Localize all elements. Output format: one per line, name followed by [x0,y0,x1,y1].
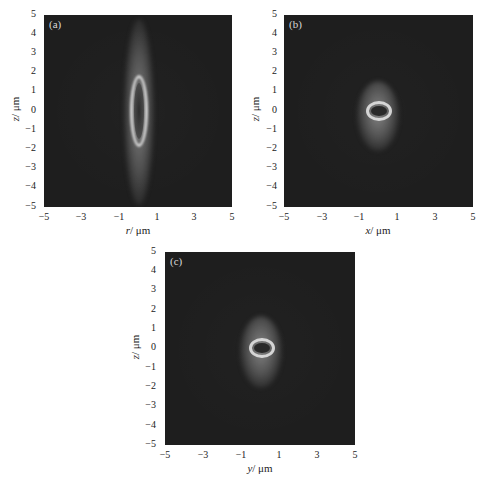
x-tick: 1 [269,449,289,460]
y-tick: 0 [259,104,277,115]
y-tick: −2 [18,142,36,153]
x-tick: 1 [387,211,407,222]
y-tick: −3 [138,399,156,410]
heatmap-plot-a: (a) [44,15,232,207]
panel-label: (b) [289,18,302,30]
x-axis-label: x/ μm [348,224,408,236]
bright-ring [130,75,148,147]
y-tick: 4 [18,27,36,38]
x-axis-label: y/ μm [230,462,290,474]
bright-ring [366,101,392,121]
x-tick: 3 [184,211,204,222]
x-tick: 3 [425,211,445,222]
y-tick: 3 [18,46,36,57]
y-tick: 2 [138,303,156,314]
x-tick: 5 [345,449,365,460]
y-tick: −4 [259,180,277,191]
x-tick: −5 [155,449,175,460]
y-tick: 1 [259,84,277,95]
x-axis-label: r/ μm [108,224,168,236]
panel-a: (a) 5 4 3 2 1 0 −1 −2 −3 −4 −5 −5 −3 −1 … [0,0,241,240]
y-axis-label: z/ μm [249,89,261,129]
x-tick: −1 [349,211,369,222]
y-tick: −2 [259,142,277,153]
x-tick: −5 [34,211,54,222]
y-tick: 5 [18,8,36,19]
heatmap-plot-b: (b) [284,15,473,207]
panel-label: (a) [49,18,61,30]
heatmap-plot-c: (c) [165,252,355,445]
y-tick: 4 [259,27,277,38]
bright-ring [249,338,275,358]
halo-glow [240,316,282,388]
x-tick: 1 [147,211,167,222]
y-tick: 5 [138,245,156,256]
panel-c: (c) 5 4 3 2 1 0 −1 −2 −3 −4 −5 −5 −3 −1 … [120,240,361,481]
y-tick: 3 [138,283,156,294]
halo-glow [124,19,154,205]
y-tick: −3 [18,161,36,172]
x-tick: −5 [274,211,294,222]
panel-b: (b) 5 4 3 2 1 0 −1 −2 −3 −4 −5 −5 −3 −1 … [241,0,482,240]
panel-label: (c) [170,255,182,267]
y-tick: −1 [259,123,277,134]
x-tick: 5 [222,211,242,222]
y-tick: 4 [138,264,156,275]
y-tick: 3 [259,46,277,57]
y-tick: −5 [18,200,36,211]
x-tick: 3 [307,449,327,460]
y-tick: 2 [18,65,36,76]
y-tick: −2 [138,380,156,391]
y-tick: −5 [138,438,156,449]
y-tick: 2 [259,65,277,76]
halo-glow [357,81,399,151]
x-tick: −3 [312,211,332,222]
x-tick: −1 [109,211,129,222]
x-tick: −3 [193,449,213,460]
dark-core [371,106,387,116]
x-tick: −3 [71,211,91,222]
y-axis-label: z/ μm [9,89,21,129]
y-tick: 5 [259,8,277,19]
dark-core [254,343,270,353]
y-tick: −4 [138,419,156,430]
y-axis-label: z/ μm [129,327,141,367]
y-tick: −5 [259,200,277,211]
x-tick: −1 [231,449,251,460]
x-tick: 5 [463,211,482,222]
y-tick: −4 [18,180,36,191]
dark-core [134,83,144,139]
y-tick: −3 [259,161,277,172]
